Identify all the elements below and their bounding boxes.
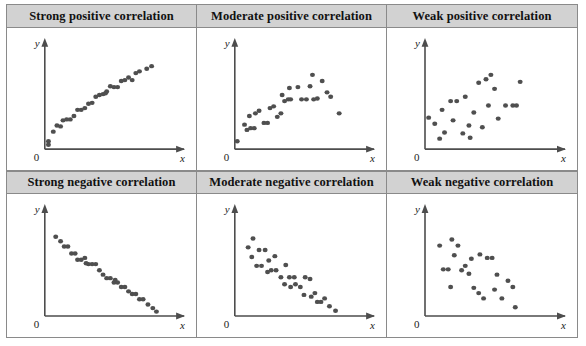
scatter-point xyxy=(448,99,453,103)
scatter-point xyxy=(251,236,256,240)
scatter-point xyxy=(293,282,298,286)
correlation-grid: Strong positive correlation Moderate pos… xyxy=(7,5,577,337)
scatter-point xyxy=(325,90,330,94)
scatter-point xyxy=(145,302,150,306)
scatter-point xyxy=(283,263,288,267)
y-axis-arrowhead-icon xyxy=(41,38,48,47)
scatter-point xyxy=(82,106,87,110)
panel-title-text: Weak negative correlation xyxy=(411,175,554,190)
scatter-point xyxy=(308,84,313,88)
y-axis-arrowhead-icon xyxy=(231,38,238,47)
scatter-point xyxy=(247,114,252,118)
scatter-point xyxy=(309,294,314,298)
scatter-point xyxy=(328,95,333,99)
scatter-point xyxy=(298,285,303,289)
scatter-point xyxy=(518,80,523,84)
scatter-plot-strong-positive: yx0 xyxy=(7,28,197,171)
y-axis-label: y xyxy=(34,37,40,49)
scatter-point xyxy=(337,111,342,115)
scatter-point xyxy=(455,243,460,247)
panel-title-text: Weak positive correlation xyxy=(412,9,551,24)
scatter-point xyxy=(246,245,251,249)
y-axis-arrowhead-icon xyxy=(422,38,429,47)
scatter-point xyxy=(53,235,58,239)
scatter-point xyxy=(468,136,473,140)
scatter-point xyxy=(490,256,495,260)
origin-label: 0 xyxy=(414,151,420,163)
scatter-point xyxy=(278,111,283,115)
scatter-point xyxy=(451,118,456,122)
panel-title-text: Strong negative correlation xyxy=(27,175,175,190)
scatter-point xyxy=(449,237,454,241)
scatter-point xyxy=(84,261,89,265)
x-axis-label: x xyxy=(560,152,566,164)
y-axis-label: y xyxy=(224,203,230,215)
scatter-point xyxy=(304,97,309,101)
scatter-point xyxy=(108,276,113,280)
scatter-point xyxy=(265,121,270,125)
scatter-point xyxy=(130,78,135,82)
origin-label: 0 xyxy=(224,151,230,163)
scatter-point xyxy=(254,264,259,268)
scatter-point xyxy=(437,136,442,140)
scatter-point xyxy=(488,73,493,77)
panel-title-text: Strong positive correlation xyxy=(29,9,174,24)
scatter-point xyxy=(51,129,56,133)
scatter-point xyxy=(115,85,120,89)
scatter-point xyxy=(322,296,327,300)
scatter-point xyxy=(492,87,497,91)
scatter-point xyxy=(459,268,464,272)
scatter-point xyxy=(295,85,300,89)
scatter-point xyxy=(58,124,63,128)
scatter-point xyxy=(485,256,490,260)
scatter-point xyxy=(65,244,70,248)
y-axis-label: y xyxy=(34,203,40,215)
scatter-point xyxy=(432,122,437,126)
y-axis-label: y xyxy=(414,37,420,49)
scatter-point xyxy=(318,300,323,304)
panel-title-text: Moderate positive correlation xyxy=(211,9,372,24)
y-axis-label: y xyxy=(414,203,420,215)
scatter-point xyxy=(437,243,442,247)
scatter-point xyxy=(315,96,320,100)
scatter-point xyxy=(275,115,280,119)
x-axis-label: x xyxy=(369,319,375,331)
x-axis-label: x xyxy=(369,152,375,164)
scatter-point xyxy=(480,125,485,129)
scatter-point xyxy=(510,285,515,289)
scatter-point xyxy=(471,286,476,290)
scatter-point xyxy=(266,258,271,262)
scatter-point xyxy=(113,278,118,282)
panel-title-strong-positive: Strong positive correlation xyxy=(7,5,197,28)
scatter-point xyxy=(149,64,154,68)
origin-label: 0 xyxy=(34,318,40,330)
scatter-point xyxy=(514,103,519,107)
scatter-point xyxy=(93,262,98,266)
scatter-point xyxy=(460,131,465,135)
scatter-point xyxy=(471,110,476,114)
scatter-point xyxy=(71,114,76,118)
y-axis-label: y xyxy=(224,37,230,49)
scatter-point xyxy=(68,117,73,121)
scatter-point xyxy=(310,73,315,77)
x-axis-label: x xyxy=(179,152,185,164)
scatter-point xyxy=(466,272,471,276)
scatter-point xyxy=(308,277,313,281)
scatter-point xyxy=(249,255,254,259)
panel-title-strong-negative: Strong negative correlation xyxy=(7,171,197,194)
scatter-point xyxy=(476,291,481,295)
scatter-point xyxy=(272,254,277,258)
scatter-point xyxy=(288,285,293,289)
scatter-point xyxy=(144,67,149,71)
scatter-point xyxy=(441,267,446,271)
scatter-point xyxy=(103,91,108,95)
scatter-point xyxy=(477,252,482,256)
scatter-point xyxy=(141,297,146,301)
scatter-point xyxy=(513,305,518,309)
scatter-point xyxy=(440,108,445,112)
y-axis-arrowhead-icon xyxy=(422,204,429,213)
scatter-point xyxy=(333,309,338,313)
scatter-point xyxy=(492,287,497,291)
panel-title-weak-negative: Weak negative correlation xyxy=(387,171,577,194)
scatter-point xyxy=(259,264,264,268)
